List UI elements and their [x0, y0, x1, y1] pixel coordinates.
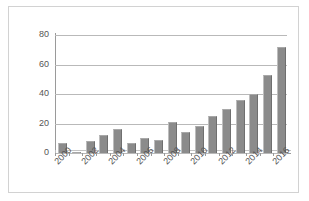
x-tick-label-2000: 2000 — [53, 146, 74, 167]
x-axis-labels: 200020022004200620082010201220142016 — [9, 7, 300, 194]
chart-frame: 020406080 200020022004200620082010201220… — [8, 6, 299, 193]
x-tick-label-2008: 2008 — [162, 146, 183, 167]
x-tick — [232, 153, 233, 156]
x-tick-label-2004: 2004 — [107, 146, 128, 167]
x-tick-label-2006: 2006 — [135, 146, 156, 167]
x-tick — [205, 153, 206, 156]
x-tick-label-2012: 2012 — [217, 146, 238, 167]
x-tick-label-2014: 2014 — [244, 146, 265, 167]
x-tick — [151, 153, 152, 156]
x-tick-label-2002: 2002 — [80, 146, 101, 167]
x-tick — [178, 153, 179, 156]
x-tick-label-2010: 2010 — [189, 146, 210, 167]
x-tick — [123, 153, 124, 156]
x-tick — [260, 153, 261, 156]
x-tick — [69, 153, 70, 156]
x-tick-label-2016: 2016 — [271, 146, 292, 167]
x-tick — [96, 153, 97, 156]
